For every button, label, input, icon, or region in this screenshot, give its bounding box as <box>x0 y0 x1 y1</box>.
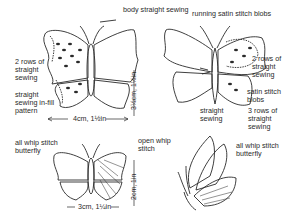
label-all-whip-stitch-right: all whip stitch butterfly <box>236 142 279 158</box>
label-two-rows-straight-right: 2 rows of straight sewing <box>252 55 281 80</box>
label-body-straight-sewing: body straight sewing <box>123 6 189 14</box>
label-three-rows-straight: 3 rows of straight sewing <box>248 107 277 132</box>
label-open-whip-stitch: open whip stitch <box>138 137 171 153</box>
label-running-satin-stitch-blobs: running satin stitch blobs <box>192 10 271 18</box>
butterfly-bottom-right-icon <box>178 136 236 210</box>
butterfly-bottom-left-icon <box>54 144 126 200</box>
label-all-whip-stitch-left: all whip stitch butterfly <box>15 139 58 155</box>
label-straight-infill-pattern: straight sewing in-fill pattern <box>15 91 54 116</box>
dimension-small-height: 2cm, 1in <box>130 174 138 200</box>
dimension-large-width: 4cm, 1½in <box>73 115 106 123</box>
label-straight-sewing: straight sewing <box>200 107 224 123</box>
butterfly-top-left-icon <box>44 20 138 108</box>
label-satin-stitch-blobs: satin stitch blobs <box>247 88 281 104</box>
dimension-large-height: 3½cm, 1½in <box>130 72 138 110</box>
label-two-rows-straight-left: 2 rows of straight sewing <box>15 58 44 83</box>
dimension-small-width: 3cm, 1¼in <box>78 203 111 211</box>
